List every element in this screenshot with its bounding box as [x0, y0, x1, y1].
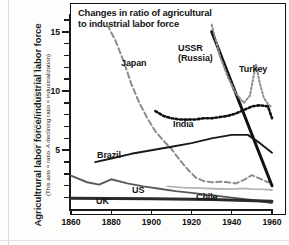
series-label-chile: Chile [196, 192, 218, 202]
chart-figure: Third World Atlas, Open University 1994 … [0, 0, 289, 245]
series-line-brazil [95, 135, 272, 162]
series-line-chile [167, 186, 272, 190]
series-line-india [155, 105, 272, 119]
series-line-ussr-russia [212, 32, 272, 186]
series-label-india: India [173, 119, 194, 129]
series-label-line2: (Russia) [178, 54, 213, 64]
series-label-japan: Japan [121, 58, 147, 68]
series-label-brazil: Brazil [97, 150, 121, 160]
series-label-ussr-russia: USSR(Russia) [178, 44, 213, 63]
series-label-uk: UK [96, 196, 109, 206]
series-label-us: US [132, 185, 144, 195]
plot-area [0, 0, 289, 245]
series-label-turkey: Turkey [239, 64, 267, 74]
